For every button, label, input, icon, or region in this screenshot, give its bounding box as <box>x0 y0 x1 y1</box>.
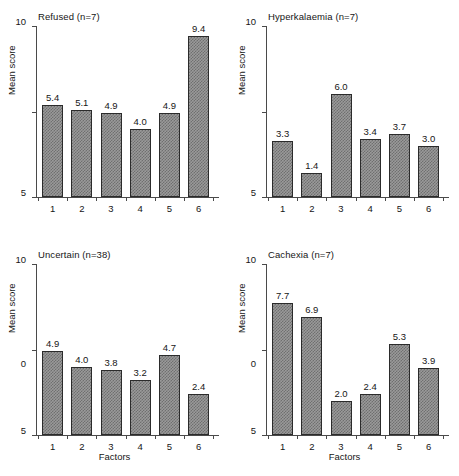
bar-value-label: 4.7 <box>151 342 188 353</box>
bar-value-label: 3.3 <box>264 128 301 139</box>
bar <box>130 129 151 197</box>
bar <box>42 351 63 435</box>
x-axis-tick-label: 4 <box>126 203 155 214</box>
bar-value-label: 4.9 <box>151 100 188 111</box>
x-axis-tick <box>184 197 185 201</box>
bar-value-label: 4.0 <box>122 116 159 127</box>
x-axis-tick <box>385 435 386 439</box>
y-axis-tick: 0 <box>262 197 267 198</box>
x-axis-tick-label: 4 <box>356 203 385 214</box>
plot-area: 05107.716.922.032.445.353.96 <box>266 264 444 435</box>
bar-value-label: 2.4 <box>352 381 389 392</box>
chart-panel-uncertain: Uncertain (n=38) Mean score 05104.914.02… <box>0 238 229 476</box>
bar-value-label: 3.2 <box>122 367 159 378</box>
plot-area: 05105.415.124.934.044.959.46 <box>36 26 214 197</box>
bar <box>331 94 352 197</box>
x-axis-spine <box>266 435 449 436</box>
y-axis-tick-label: 10 <box>15 21 26 22</box>
x-axis-tick <box>184 435 185 439</box>
x-axis-spine <box>266 197 449 198</box>
y-axis-tick-label: 5 <box>21 430 26 431</box>
panel-title: Hyperkalaemia (n=7) <box>268 11 358 22</box>
y-axis-label: Mean score <box>236 81 247 95</box>
panel-title: Uncertain (n=38) <box>38 249 111 260</box>
x-axis-tick <box>96 197 97 201</box>
bar <box>130 380 151 435</box>
x-axis-tick-label: 6 <box>184 203 213 214</box>
bar-value-label: 3.7 <box>381 121 418 132</box>
bar <box>71 110 92 197</box>
x-axis-tick <box>96 435 97 439</box>
y-axis-label: Mean score <box>6 319 17 333</box>
x-axis-tick <box>356 435 357 439</box>
x-axis-tick <box>385 197 386 201</box>
y-axis-label: Mean score <box>236 319 247 333</box>
bar-value-label: 6.9 <box>293 304 330 315</box>
x-axis-tick <box>67 197 68 201</box>
bar <box>389 344 410 435</box>
x-axis-tick-label: 2 <box>297 203 326 214</box>
y-axis-tick: 5 <box>32 350 37 351</box>
bar-value-label: 6.0 <box>323 81 360 92</box>
y-axis-tick-label: 5 <box>21 192 26 193</box>
x-axis-tick <box>38 435 39 439</box>
bar <box>301 173 322 197</box>
figure-bar-chart-grid: Refused (n=7) Mean score 05105.415.124.9… <box>0 0 459 476</box>
x-axis-tick <box>356 197 357 201</box>
chart-panel-refused: Refused (n=7) Mean score 05105.415.124.9… <box>0 0 229 238</box>
x-axis-tick <box>326 435 327 439</box>
panel-title: Refused (n=7) <box>38 11 100 22</box>
x-axis-tick <box>414 435 415 439</box>
x-axis-tick <box>443 435 444 439</box>
bar <box>101 370 122 435</box>
bar <box>418 146 439 197</box>
bar-value-label: 1.4 <box>293 160 330 171</box>
y-axis-tick: 10 <box>32 26 37 27</box>
bar-value-label: 7.7 <box>264 290 301 301</box>
y-axis-tick: 10 <box>262 264 267 265</box>
x-axis-tick <box>268 197 269 201</box>
bar <box>272 141 293 197</box>
bar-value-label: 4.9 <box>34 338 71 349</box>
bar <box>101 113 122 197</box>
x-axis-tick <box>414 197 415 201</box>
y-axis-tick-label: 10 <box>245 21 256 22</box>
x-axis-tick <box>297 197 298 201</box>
x-axis-tick <box>443 197 444 201</box>
y-axis-tick: 5 <box>262 350 267 351</box>
x-axis-tick <box>155 435 156 439</box>
y-axis-tick: 10 <box>262 26 267 27</box>
x-axis-tick-label: 6 <box>414 203 443 214</box>
bar <box>42 105 63 197</box>
x-axis-tick-label: 2 <box>67 203 96 214</box>
bar-value-label: 2.4 <box>180 381 217 392</box>
bar <box>188 394 209 435</box>
x-axis-tick-label: 1 <box>268 203 297 214</box>
y-axis-tick: 5 <box>262 112 267 113</box>
x-axis-tick <box>155 197 156 201</box>
x-axis-tick <box>268 435 269 439</box>
y-axis-tick-label: 5 <box>251 430 256 431</box>
x-axis-tick <box>126 435 127 439</box>
chart-panel-cachexia: Cachexia (n=7) Mean score 05107.716.922.… <box>230 238 459 476</box>
bar-value-label: 9.4 <box>180 23 217 34</box>
x-axis-tick <box>326 197 327 201</box>
x-axis-tick <box>67 435 68 439</box>
bar <box>272 303 293 435</box>
bar <box>418 368 439 435</box>
x-axis-tick-label: 5 <box>155 203 184 214</box>
bar <box>360 394 381 435</box>
y-axis-tick-label: 10 <box>245 259 256 260</box>
plot-area: 05103.311.426.033.443.753.06 <box>266 26 444 197</box>
x-axis-spine <box>36 435 219 436</box>
y-axis-tick-label: 10 <box>15 259 26 260</box>
x-axis-tick <box>213 197 214 201</box>
bar-value-label: 4.9 <box>93 100 130 111</box>
bar <box>71 367 92 435</box>
bar-value-label: 5.3 <box>381 331 418 342</box>
y-axis-label: Mean score <box>6 81 17 95</box>
bar <box>301 317 322 435</box>
x-axis-tick-label: 1 <box>38 203 67 214</box>
bar-value-label: 3.0 <box>410 133 447 144</box>
x-axis-label: Factors <box>230 451 459 462</box>
